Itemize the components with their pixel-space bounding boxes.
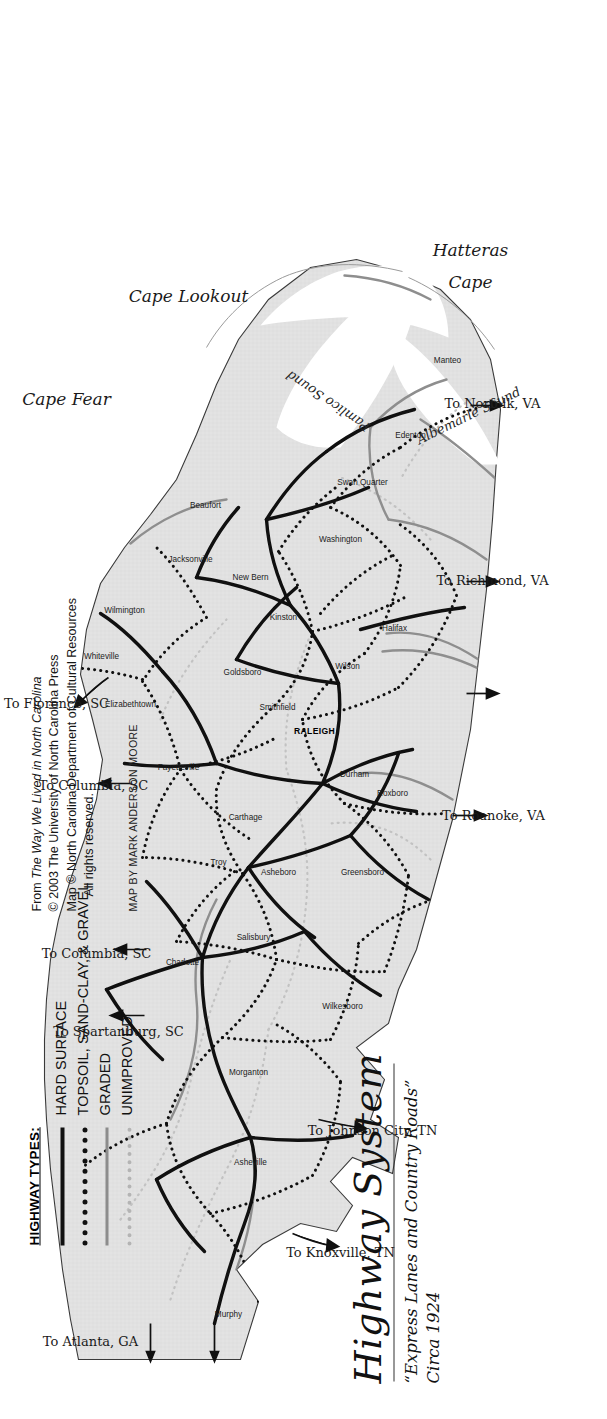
map-label: Elizabethtown	[105, 699, 156, 708]
credit-line-1: From The Way We Lived in North Carolina	[28, 491, 45, 911]
legend-label-graded: GRADED	[96, 1052, 112, 1115]
map-label: Carthage	[228, 812, 262, 821]
map-label: Smithfield	[259, 702, 295, 711]
map-label: Halifax	[381, 623, 406, 632]
map-label: Kinston	[269, 612, 297, 621]
credit-line-3: Map © North Carolina Department of Cultu…	[63, 491, 80, 911]
map-label: Charlotte	[165, 957, 199, 966]
map-label: Asheville	[234, 1157, 267, 1166]
map-label: Cape Lookout	[128, 285, 248, 305]
map-label: Greensboro	[340, 867, 384, 876]
map-label: Wilson	[335, 661, 360, 670]
map-label: Durham	[339, 769, 368, 778]
map-label: Roxboro	[377, 788, 408, 797]
map-label: Swan Quarter	[337, 477, 388, 486]
credit-block: From The Way We Lived in North Carolina …	[28, 491, 97, 911]
title-divider	[393, 1063, 394, 1381]
map-page: MurphyAshevilleMorgantonWilkesboroCharlo…	[0, 0, 607, 1419]
map-label: To Roanoke, VA	[442, 807, 546, 822]
map-label: New Bern	[232, 572, 268, 581]
map-label: To Atlanta, GA	[42, 1333, 138, 1348]
map-label: Cape Fear	[22, 388, 112, 408]
map-label: Salisbury	[236, 932, 271, 941]
map-label: Manteo	[433, 355, 461, 364]
map-label: Fayetteville	[157, 762, 199, 771]
map-title: Highway System	[348, 983, 388, 1383]
map-label: RALEIGH	[294, 725, 335, 735]
credit-line-2: © 2003 The University of North Carolina …	[45, 491, 62, 911]
map-label: Morganton	[228, 1067, 268, 1076]
map-label: Beaufort	[190, 500, 222, 509]
legend-swatch-unimproved	[127, 1127, 131, 1245]
map-label: Cape	[448, 271, 492, 291]
map-label: Wilmington	[104, 605, 145, 614]
map-label: To Richmond, VA	[436, 572, 549, 587]
map-label: Washington	[319, 534, 362, 543]
legend-swatch-topsoil	[82, 1127, 87, 1245]
map-label: Murphy	[214, 1309, 242, 1318]
legend-label-hard-surface: HARD SURFACE	[52, 1000, 68, 1115]
map-label: To Norfolk, VA	[444, 395, 540, 410]
map-label: Asheboro	[260, 867, 295, 876]
legend-label-topsoil: TOPSOIL, SAND-CLAY, & GRAVEL	[74, 882, 90, 1115]
legend-label-unimproved: UNIMPROVED	[118, 1016, 134, 1115]
legend-swatch-graded	[105, 1127, 108, 1245]
map-label: Jacksonville	[168, 554, 213, 563]
map-subtitle-line-2: Circa 1924	[422, 983, 444, 1383]
map-label: Goldsboro	[223, 667, 261, 676]
rotated-map-stage: MurphyAshevilleMorgantonWilkesboroCharlo…	[0, 0, 607, 1419]
credit-line-1-prefix: From	[29, 878, 43, 911]
map-subtitle-line-1: “Express Lanes and Country Roads”	[400, 983, 422, 1383]
legend-swatch-hard-surface	[60, 1127, 64, 1245]
title-block: Highway System “Express Lanes and Countr…	[348, 983, 444, 1383]
credit-line-4: All rights reserved.	[80, 491, 97, 911]
map-label: Troy	[210, 857, 227, 866]
credit-book-title: The Way We Lived in North Carolina	[29, 676, 43, 878]
map-label: Hatteras	[431, 239, 508, 259]
credit-byline: MAP BY MARK ANDERSON MOORE	[126, 724, 138, 911]
